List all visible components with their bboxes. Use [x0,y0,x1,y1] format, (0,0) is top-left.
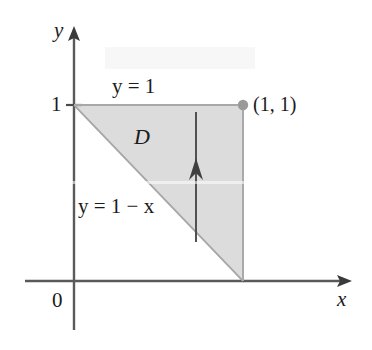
corner-point-dot-icon [238,100,248,110]
origin-label: 0 [52,290,63,311]
x-axis-label: x [337,289,346,310]
figure-canvas: y x 0 1 y = 1 y = 1 − x D (1, 1) [0,0,372,350]
region-label-d: D [134,126,150,148]
y-axis-label: y [54,20,63,41]
label-y-equals-1: y = 1 [112,76,155,97]
point-label-1-1: (1, 1) [253,94,296,114]
y-tick-label-1: 1 [51,94,62,115]
label-y-equals-1-minus-x: y = 1 − x [78,196,154,217]
